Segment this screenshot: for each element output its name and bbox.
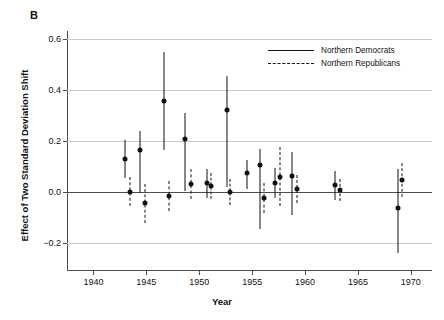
- data-point: [273, 181, 278, 186]
- x-tick-mark-1960: [305, 271, 306, 275]
- x-tick-label-1960: 1960: [295, 277, 315, 287]
- x-tick-label-1950: 1950: [189, 277, 209, 287]
- x-tick-mark-1955: [252, 271, 253, 275]
- x-tick-mark-1965: [358, 271, 359, 275]
- legend-label-republicans: Northern Republicans: [321, 59, 400, 68]
- data-point: [138, 148, 143, 153]
- legend: Northern Democrats Northern Republicans: [268, 44, 400, 70]
- y-tick-mark: [63, 141, 67, 142]
- y-tick-label: 0.0: [48, 187, 61, 197]
- data-point: [188, 182, 193, 187]
- gridline-y-0: 0.0: [67, 192, 432, 193]
- legend-entry-republicans: Northern Republicans: [268, 57, 400, 70]
- y-axis-label: Effect of Two Standard Deviation Shift: [19, 36, 30, 276]
- data-point: [227, 189, 232, 194]
- data-point: [400, 178, 405, 183]
- error-bar: [226, 76, 227, 186]
- gridline-y-0p2: 0.2: [67, 141, 432, 142]
- x-tick-label-1970: 1970: [401, 277, 421, 287]
- data-point: [183, 136, 188, 141]
- y-tick-label: −0.2: [43, 238, 61, 248]
- x-axis-label: Year: [0, 296, 444, 307]
- data-point: [162, 99, 167, 104]
- data-point: [290, 174, 295, 179]
- x-tick-label-1940: 1940: [83, 277, 103, 287]
- data-point: [128, 189, 133, 194]
- y-tick-mark: [63, 192, 67, 193]
- x-tick-label-1945: 1945: [136, 277, 156, 287]
- gridline-y-0p4: 0.4: [67, 90, 432, 91]
- x-axis-line: [67, 270, 432, 271]
- data-point: [166, 193, 171, 198]
- error-bar: [292, 152, 293, 215]
- legend-swatch-dashed: [268, 63, 314, 64]
- y-tick-label: 0.6: [48, 34, 61, 44]
- y-tick-label: 0.2: [48, 136, 61, 146]
- legend-swatch-solid: [268, 50, 314, 51]
- error-bar: [140, 131, 141, 193]
- data-point: [396, 205, 401, 210]
- data-point: [123, 156, 128, 161]
- y-tick-mark: [63, 39, 67, 40]
- data-point: [337, 187, 342, 192]
- error-bar: [185, 113, 186, 191]
- panel-letter: B: [30, 9, 38, 21]
- data-point: [294, 186, 299, 191]
- error-bar: [398, 169, 399, 252]
- error-bar: [259, 149, 260, 229]
- data-point: [244, 171, 249, 176]
- legend-entry-democrats: Northern Democrats: [268, 44, 400, 57]
- gridline-y-0p6: 0.6: [67, 39, 432, 40]
- x-tick-label-1965: 1965: [348, 277, 368, 287]
- data-point: [277, 174, 282, 179]
- y-axis-line: [67, 31, 68, 271]
- y-tick-mark: [63, 243, 67, 244]
- x-tick-mark-1950: [199, 271, 200, 275]
- data-point: [208, 184, 213, 189]
- data-point: [224, 107, 229, 112]
- y-tick-label: 0.4: [48, 85, 61, 95]
- x-tick-mark-1970: [411, 271, 412, 275]
- y-tick-mark: [63, 90, 67, 91]
- gridline-y--0p2: −0.2: [67, 243, 432, 244]
- data-point: [261, 195, 266, 200]
- legend-label-democrats: Northern Democrats: [321, 46, 395, 55]
- x-tick-mark-1945: [146, 271, 147, 275]
- data-point: [143, 201, 148, 206]
- data-point: [332, 183, 337, 188]
- x-tick-mark-1940: [93, 271, 94, 275]
- data-point: [257, 163, 262, 168]
- x-tick-label-1955: 1955: [242, 277, 262, 287]
- figure-panel-b: B Effect of Two Standard Deviation Shift…: [0, 0, 444, 320]
